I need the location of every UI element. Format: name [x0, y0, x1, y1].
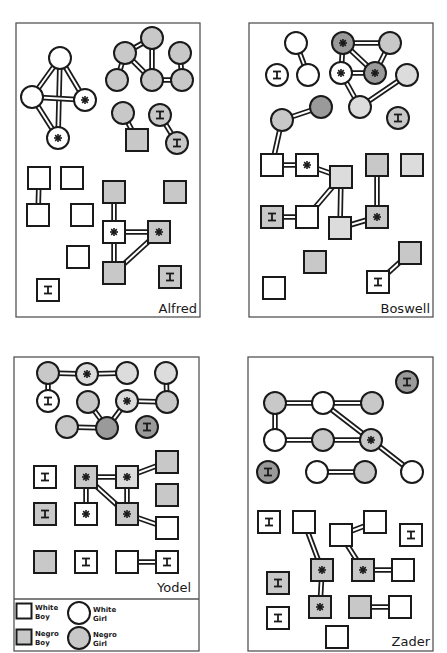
- node-white-boy: [71, 204, 93, 226]
- node-white-boy: [258, 511, 280, 533]
- node-negro-girl: [136, 416, 158, 438]
- node-white-girl: [37, 390, 59, 412]
- node-negro-boy: [401, 154, 423, 176]
- node-white-girl: [297, 64, 319, 86]
- node-negro-boy: [156, 451, 178, 473]
- node-negro-girl: [149, 104, 171, 126]
- node-negro-girl: [77, 391, 99, 413]
- node-negro-girl: [396, 64, 418, 86]
- node-negro-girl: [264, 392, 286, 414]
- node-negro-boy: [116, 503, 138, 525]
- node-white-boy: [400, 524, 422, 546]
- node-white-boy: [75, 503, 97, 525]
- node-negro-girl: [169, 42, 191, 64]
- node-white-boy: [34, 466, 56, 488]
- node-white-girl: [264, 429, 286, 451]
- node-negro-girl: [141, 69, 163, 91]
- star-marker-icon: [82, 473, 90, 481]
- node-white-girl: [21, 86, 43, 108]
- node-white-boy: [293, 511, 315, 533]
- node-negro-boy: [349, 596, 371, 618]
- legend-label-line1: White: [35, 604, 58, 612]
- panel-alfred: Alfred: [16, 23, 200, 317]
- node-white-boy: [263, 277, 285, 299]
- node-negro-girl: [310, 96, 332, 118]
- node-white-girl: [401, 461, 423, 483]
- legend-label-line1: White: [93, 606, 116, 614]
- node-negro-boy: [116, 466, 138, 488]
- node-negro-girl: [96, 417, 118, 439]
- node-white-girl: [68, 602, 90, 624]
- node-negro-girl: [155, 362, 177, 384]
- node-negro-girl: [332, 32, 354, 54]
- node-negro-boy: [267, 572, 289, 594]
- node-negro-girl: [106, 69, 128, 91]
- node-negro-boy: [311, 559, 333, 581]
- node-white-boy: [28, 167, 50, 189]
- node-white-boy: [392, 559, 414, 581]
- legend-label-line2: Girl: [93, 615, 107, 623]
- panel-zader: Zader: [248, 357, 433, 651]
- node-white-boy: [27, 204, 49, 226]
- panel-boswell: Boswell: [249, 23, 433, 317]
- star-marker-icon: [83, 370, 91, 378]
- star-marker-icon: [303, 161, 311, 169]
- node-white-boy: [156, 551, 178, 573]
- node-white-boy: [261, 154, 283, 176]
- star-marker-icon: [123, 510, 131, 518]
- node-white-boy: [67, 246, 89, 268]
- node-negro-boy: [352, 559, 374, 581]
- star-marker-icon: [110, 228, 118, 236]
- star-marker-icon: [339, 39, 347, 47]
- panel-label: Yodel: [156, 580, 191, 595]
- node-white-boy: [17, 604, 32, 619]
- star-marker-icon: [371, 69, 379, 77]
- node-negro-girl: [166, 132, 188, 154]
- star-marker-icon: [123, 397, 131, 405]
- star-marker-icon: [359, 566, 367, 574]
- star-marker-icon: [54, 134, 62, 142]
- node-white-boy: [367, 271, 389, 293]
- node-negro-girl: [156, 391, 178, 413]
- node-negro-girl: [68, 627, 90, 649]
- node-negro-girl: [349, 96, 371, 118]
- node-white-boy: [296, 154, 318, 176]
- node-white-girl: [306, 461, 328, 483]
- node-white-girl: [49, 47, 71, 69]
- node-negro-boy: [366, 206, 388, 228]
- legend-label-line2: Boy: [35, 613, 50, 621]
- node-negro-girl: [114, 42, 136, 64]
- node-white-boy: [75, 551, 97, 573]
- node-white-boy: [326, 626, 348, 648]
- node-white-boy: [296, 206, 318, 228]
- node-negro-girl: [116, 390, 138, 412]
- node-negro-girl: [360, 429, 382, 451]
- star-marker-icon: [123, 473, 131, 481]
- node-negro-girl: [76, 363, 98, 385]
- node-white-girl: [312, 392, 334, 414]
- node-negro-girl: [56, 416, 78, 438]
- node-white-girl: [266, 64, 288, 86]
- node-white-girl: [285, 32, 307, 54]
- panel-label: Zader: [392, 634, 431, 649]
- sociogram-figure: AlfredBoswellYodelZader WhiteBoyWhiteGir…: [0, 0, 447, 653]
- node-white-girl: [47, 127, 69, 149]
- node-white-boy: [61, 167, 83, 189]
- node-negro-boy: [330, 166, 352, 188]
- node-negro-girl: [364, 62, 386, 84]
- node-negro-girl: [361, 392, 383, 414]
- node-negro-girl: [396, 371, 418, 393]
- legend-label-line1: Negro: [93, 631, 117, 639]
- node-white-girl: [330, 62, 352, 84]
- star-marker-icon: [318, 566, 326, 574]
- star-marker-icon: [367, 436, 375, 444]
- star-marker-icon: [155, 228, 163, 236]
- node-negro-boy: [399, 242, 421, 264]
- star-marker-icon: [82, 510, 90, 518]
- node-negro-boy: [34, 551, 56, 573]
- legend-label-line2: Girl: [93, 640, 107, 648]
- node-negro-boy: [126, 129, 148, 151]
- node-negro-boy: [309, 596, 331, 618]
- star-marker-icon: [373, 213, 381, 221]
- star-marker-icon: [316, 603, 324, 611]
